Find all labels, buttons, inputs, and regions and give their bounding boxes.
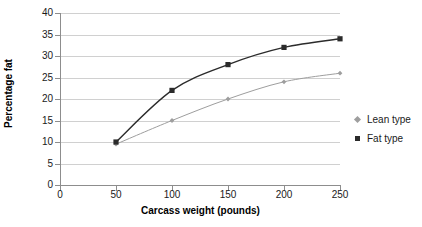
chart-container: Percentage fat 40 35 30 25 20 15 10 5 0 <box>0 0 422 227</box>
square-marker-icon <box>169 88 174 93</box>
diamond-marker-icon <box>170 118 175 123</box>
diamond-marker-icon <box>226 97 231 102</box>
square-marker-icon <box>337 36 342 41</box>
legend-item-lean-type[interactable]: Lean type <box>352 110 411 129</box>
diamond-marker-icon <box>338 71 343 76</box>
square-marker-icon <box>113 139 118 144</box>
legend-item-fat-type[interactable]: Fat type <box>352 129 411 148</box>
legend-label: Fat type <box>367 133 403 144</box>
legend-label: Lean type <box>367 114 411 125</box>
square-marker-icon <box>281 45 286 50</box>
square-marker-icon <box>352 134 362 144</box>
chart-legend: Lean type Fat type <box>352 110 411 148</box>
square-marker-icon <box>225 62 230 67</box>
series-line-fat-type <box>116 39 340 142</box>
diamond-marker-icon <box>352 115 362 125</box>
diamond-marker-icon <box>282 79 287 84</box>
